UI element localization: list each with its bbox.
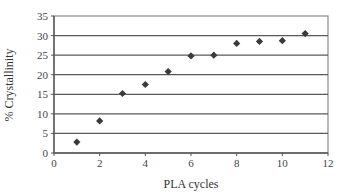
data-point-marker [210, 52, 217, 59]
x-tick-label: 4 [143, 157, 149, 169]
y-tick-label: 15 [37, 88, 49, 100]
y-tick-label: 5 [43, 127, 49, 139]
data-point-marker [165, 68, 172, 75]
data-point-marker [119, 90, 126, 97]
x-tick-label: 6 [188, 157, 194, 169]
data-point-marker [279, 37, 286, 44]
x-axis-ticks: 024681012 [51, 153, 333, 169]
data-point-marker [73, 138, 80, 145]
x-axis-label: PLA cycles [164, 177, 219, 191]
scatter-chart: 05101520253035 024681012 PLA cycles % Cr… [0, 0, 349, 193]
data-points [73, 30, 309, 146]
x-tick-label: 8 [234, 157, 240, 169]
y-tick-label: 35 [37, 10, 49, 22]
y-tick-label: 30 [37, 30, 49, 42]
plot-border [54, 16, 328, 153]
x-tick-label: 2 [97, 157, 103, 169]
x-tick-label: 0 [51, 157, 57, 169]
x-tick-label: 10 [277, 157, 289, 169]
gridlines [54, 36, 328, 134]
data-point-marker [96, 117, 103, 124]
y-axis-ticks: 05101520253035 [37, 10, 54, 159]
y-axis-label: % Crystallinity [2, 49, 16, 122]
plot-area [54, 16, 328, 153]
data-point-marker [142, 81, 149, 88]
x-tick-label: 12 [323, 157, 334, 169]
y-tick-label: 10 [37, 108, 49, 120]
data-point-marker [256, 38, 263, 45]
y-tick-label: 0 [43, 147, 49, 159]
y-tick-label: 20 [37, 69, 49, 81]
y-tick-label: 25 [37, 49, 49, 61]
data-point-marker [187, 52, 194, 59]
data-point-marker [233, 40, 240, 47]
